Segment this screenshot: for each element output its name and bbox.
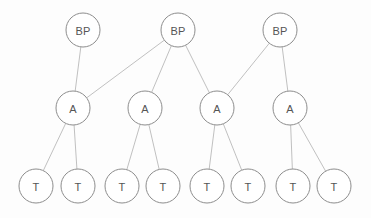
node-label-bp3: BP <box>272 25 287 37</box>
node-t5[interactable]: T <box>190 169 224 203</box>
edge-a1-to-t2 <box>74 125 77 169</box>
edge-a2-to-t3 <box>127 124 140 169</box>
node-label-t5: T <box>204 181 211 193</box>
edge-bp3-to-a3 <box>228 43 270 95</box>
edge-a3-to-t5 <box>209 125 215 169</box>
node-bp3[interactable]: BP <box>263 13 297 47</box>
tree-diagram-canvas: BPBPBPAAAATTTTTTTT <box>0 0 371 218</box>
node-bp1[interactable]: BP <box>66 13 100 47</box>
node-label-t2: T <box>75 181 82 193</box>
node-label-a2: A <box>141 103 149 115</box>
edge-a1-to-t1 <box>43 123 65 170</box>
node-a4[interactable]: A <box>273 91 307 125</box>
tree-diagram: BPBPBPAAAATTTTTTTT <box>0 0 371 218</box>
node-t4[interactable]: T <box>146 169 180 203</box>
edge-a4-to-t7 <box>291 125 293 169</box>
node-t8[interactable]: T <box>317 169 351 203</box>
node-label-a4: A <box>286 103 294 115</box>
node-t6[interactable]: T <box>231 169 265 203</box>
node-label-t6: T <box>245 181 252 193</box>
nodes-group: BPBPBPAAAATTTTTTTT <box>19 13 351 203</box>
edge-bp3-to-a4 <box>282 47 288 91</box>
node-label-a1: A <box>69 103 77 115</box>
node-t7[interactable]: T <box>276 169 310 203</box>
node-t2[interactable]: T <box>61 169 95 203</box>
edge-a2-to-t4 <box>149 125 159 170</box>
node-label-t1: T <box>33 181 40 193</box>
edge-bp2-to-a3 <box>186 45 210 93</box>
node-label-t7: T <box>290 181 297 193</box>
node-a3[interactable]: A <box>200 91 234 125</box>
node-a2[interactable]: A <box>128 91 162 125</box>
edge-bp2-to-a2 <box>152 46 172 93</box>
node-a1[interactable]: A <box>56 91 90 125</box>
node-label-bp2: BP <box>170 25 185 37</box>
edge-a3-to-t6 <box>223 124 241 170</box>
node-label-bp1: BP <box>75 25 90 37</box>
edge-a4-to-t8 <box>298 123 325 171</box>
node-label-t4: T <box>160 181 167 193</box>
node-t3[interactable]: T <box>105 169 139 203</box>
node-label-t3: T <box>119 181 126 193</box>
node-t1[interactable]: T <box>19 169 53 203</box>
edge-bp1-to-a1 <box>75 47 81 91</box>
node-label-t8: T <box>331 181 338 193</box>
node-label-a3: A <box>213 103 221 115</box>
node-bp2[interactable]: BP <box>161 13 195 47</box>
